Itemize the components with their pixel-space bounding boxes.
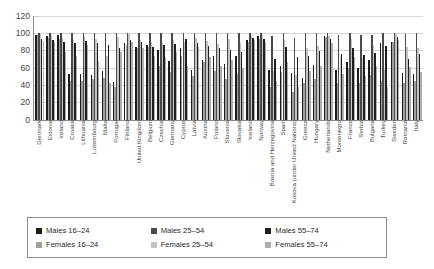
x-tick-label: Montenegro (335, 120, 341, 153)
bar (176, 52, 177, 120)
y-tick-60: 60 (0, 64, 30, 73)
legend-item[interactable]: Females 25–54 (151, 241, 266, 249)
legend-swatch-icon (265, 228, 271, 234)
x-tick-label: Lithuania (80, 120, 86, 145)
chart-legend: Males 16–24Males 25–54Males 55–74Females… (27, 217, 387, 258)
bar (131, 42, 132, 120)
x-tick-label-cell: Romania (400, 120, 411, 208)
x-tick-label: Norway (258, 120, 264, 141)
x-tick-label-cell: Slovenia (222, 120, 233, 208)
x-tick-label: Portugal (113, 120, 119, 143)
legend-label: Males 55–74 (275, 227, 318, 235)
bar-group (378, 16, 389, 120)
x-tick-label-cell: Turkey (378, 120, 389, 208)
x-tick-label: Iceland (247, 120, 253, 140)
bar-group (301, 16, 312, 120)
bar (354, 57, 355, 119)
bar (320, 66, 321, 120)
x-tick-label: Romania (402, 120, 408, 144)
x-tick-label-cell: Estonia (44, 120, 55, 208)
x-tick-label: Austria (202, 120, 208, 139)
bar-groups (34, 16, 423, 120)
bar-group (212, 16, 223, 120)
bar-group (145, 16, 156, 120)
bar-group (278, 16, 289, 120)
x-tick-label-cell: Luxembourg (89, 120, 100, 208)
legend-item[interactable]: Females 55–74 (265, 241, 380, 249)
x-tick-label-cell: Austria (200, 120, 211, 208)
bar (142, 48, 143, 120)
x-tick-label-cell: Serbia (355, 120, 366, 208)
bar (287, 62, 288, 119)
x-tick-label-cell: Malta (100, 120, 111, 208)
x-tick-label: Italy (413, 120, 419, 131)
y-tick-0: 0 (0, 116, 30, 125)
bar (98, 61, 99, 119)
bar (154, 56, 155, 119)
bar-group (367, 16, 378, 120)
x-tick-label: Greece (302, 120, 308, 140)
x-tick-label-cell: Netherlands (322, 120, 333, 208)
bar-group (67, 16, 78, 120)
bar-group (356, 16, 367, 120)
bar-group (256, 16, 267, 120)
bar (242, 68, 243, 120)
x-tick-label: Malta (102, 120, 108, 135)
bar-group (78, 16, 89, 120)
x-tick-label-cell: Finland (122, 120, 133, 208)
legend-item[interactable]: Females 16–24 (36, 241, 151, 249)
x-tick-label: Sweden (391, 120, 397, 142)
legend-label: Males 25–54 (161, 227, 204, 235)
bar-group (178, 16, 189, 120)
x-tick-label-cell: Greece (300, 120, 311, 208)
bar-group (123, 16, 134, 120)
legend-label: Males 16–24 (46, 227, 89, 235)
bar-group (134, 16, 145, 120)
x-tick-label-cell: United Kingdom (133, 120, 144, 208)
bar-group (290, 16, 301, 120)
x-tick-label: Germany (169, 120, 175, 145)
x-tick-label: Finland (124, 120, 130, 140)
bar (120, 52, 121, 120)
x-tick-label-cell: Slovakia (233, 120, 244, 208)
legend-item[interactable]: Males 55–74 (265, 227, 380, 235)
bar-group (167, 16, 178, 120)
legend-label: Females 16–24 (46, 241, 98, 249)
x-tick-label: Slovakia (235, 120, 241, 143)
bar-group (312, 16, 323, 120)
x-tick-label-cell: Lithuania (77, 120, 88, 208)
bar-group (245, 16, 256, 120)
bar-group (390, 16, 401, 120)
x-tick-label: Serbia (358, 120, 364, 138)
x-tick-label-cell: Italy (411, 120, 422, 208)
legend-swatch-icon (36, 242, 42, 248)
x-tick-label-cell: Denmark (33, 120, 44, 208)
legend-item[interactable]: Males 16–24 (36, 227, 151, 235)
x-tick-label: Slovenia (224, 120, 230, 143)
x-tick-label-cell: Ireland (55, 120, 66, 208)
x-tick-label: United Kingdom (135, 120, 141, 163)
x-tick-label: Kosova (under United Nations) (291, 120, 297, 203)
bar-group (412, 16, 423, 120)
x-tick-label: Bosnia and Herzegovina (269, 120, 275, 186)
bar (220, 66, 221, 120)
legend-item[interactable]: Males 25–54 (151, 227, 266, 235)
bar (409, 67, 410, 120)
bar (376, 66, 377, 120)
bar-group (101, 16, 112, 120)
y-tick-120: 120 (0, 12, 30, 21)
x-tick-label-cell: Bosnia and Herzegovina (266, 120, 277, 208)
legend-swatch-icon (265, 242, 271, 248)
bar-group (56, 16, 67, 120)
x-tick-label-cell: Germany (166, 120, 177, 208)
bar (231, 60, 232, 120)
bar-group (323, 16, 334, 120)
y-tick-40: 40 (0, 81, 30, 90)
bar-group (401, 16, 412, 120)
legend-swatch-icon (151, 242, 157, 248)
x-tick-label: Ireland (58, 120, 64, 139)
x-tick-label: Latvia (191, 120, 197, 136)
bar-group (267, 16, 278, 120)
bar (209, 57, 210, 119)
bar (109, 83, 110, 119)
